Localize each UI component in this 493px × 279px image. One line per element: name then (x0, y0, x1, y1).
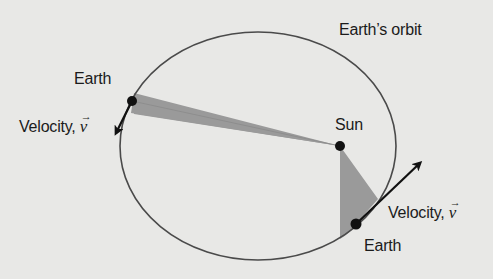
velocity-arrow-left (116, 101, 132, 133)
velocity-right-vector-symbol: →v (449, 204, 456, 221)
diagram-canvas: Earth’s orbit Earth Velocity, →v Sun Vel… (0, 0, 493, 279)
velocity-left-label: Velocity, →v (19, 118, 87, 135)
velocity-right-text: Velocity, (388, 204, 449, 221)
vector-arrow-icon: → (81, 111, 92, 122)
sun-label: Sun (335, 117, 363, 133)
sun-dot (335, 141, 345, 151)
velocity-left-vector-symbol: →v (80, 118, 87, 135)
kepler-orbit-diagram (0, 0, 493, 279)
orbit-label: Earth’s orbit (339, 22, 421, 38)
earth-dot-right (351, 219, 362, 230)
earth-left-label: Earth (74, 71, 111, 87)
earth-dot-left (127, 96, 137, 106)
earth-right-label: Earth (364, 238, 401, 254)
vector-arrow-icon: → (450, 197, 461, 208)
swept-area-left-wedge (131, 93, 340, 146)
velocity-left-text: Velocity, (19, 118, 80, 135)
velocity-right-label: Velocity, →v (388, 204, 456, 221)
radius-line-left (132, 101, 340, 146)
